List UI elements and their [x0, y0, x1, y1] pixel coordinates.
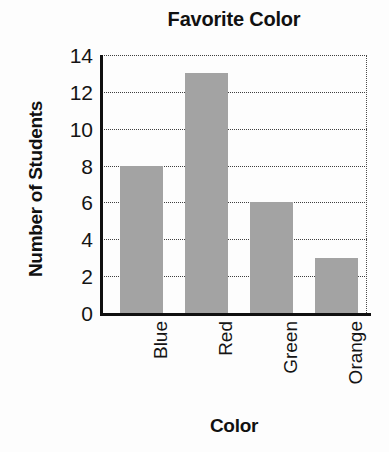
x-axis-tick-label-orange: Orange — [346, 321, 365, 384]
bar-orange — [315, 258, 358, 313]
bar-blue — [120, 166, 163, 313]
x-axis-title: Color — [100, 415, 368, 437]
bar-chart-figure: Favorite Color Number of Students 141210… — [0, 0, 389, 452]
gridline — [102, 92, 367, 93]
bar-red — [185, 73, 228, 313]
y-axis-title: Number of Students — [25, 59, 47, 319]
x-axis-tick-label-red: Red — [216, 321, 235, 356]
y-axis-tick-label: 6 — [81, 192, 93, 213]
y-axis-tick-label: 14 — [70, 45, 93, 66]
x-axis-tick-label-blue: Blue — [151, 321, 170, 359]
y-axis-tick-label: 10 — [70, 118, 93, 139]
y-axis-line — [100, 55, 103, 314]
gridline — [102, 55, 367, 56]
plot-right-border — [366, 55, 367, 313]
y-axis-tick-label: 4 — [81, 229, 93, 250]
gridline — [102, 129, 367, 130]
y-axis-tick-label: 12 — [70, 81, 93, 102]
plot-area: 14121086420 BlueRedGreenOrange — [100, 55, 368, 313]
x-axis-line — [100, 313, 371, 316]
y-axis-tick-label: 8 — [81, 155, 93, 176]
y-axis-tick-label: 2 — [81, 266, 93, 287]
bar-green — [250, 202, 293, 313]
chart-title: Favorite Color — [100, 8, 368, 31]
x-axis-tick-label-green: Green — [281, 321, 300, 374]
y-axis-tick-label: 0 — [81, 303, 93, 324]
